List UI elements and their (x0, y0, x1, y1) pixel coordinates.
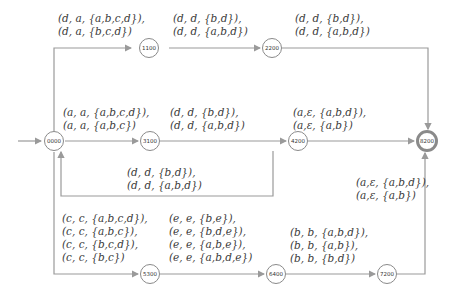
label-line: (d, d, {b,d}), (295, 12, 370, 25)
label-line: (a, a, {a,b,c}) (63, 119, 149, 132)
label-line: (e, e, {b,e}), (169, 212, 252, 225)
label-line: (d, d, {a,b,d}) (127, 179, 202, 192)
label-line: (a,ε, {a,b}) (356, 189, 429, 202)
edge-label-0000-1100: (d, a, {a,b,c,d}), (d, a, {b,c,d}) (58, 12, 145, 38)
label-line: (b, b, {a,b,d}), (290, 226, 368, 239)
edge-7200-8200 (397, 153, 425, 274)
label-line: (b, b, {a,b}), (290, 239, 368, 252)
label-line: (c, c, {a,b,c,d}), (62, 212, 148, 225)
edge-label-2200-8200: (d, d, {b,d}), (d, d, {a,b,d}) (295, 12, 370, 38)
node-6400[interactable]: 6400 (266, 264, 286, 284)
label-line: (a,ε, {a,b}) (293, 119, 366, 132)
node-label: 6400 (269, 271, 283, 277)
node-0000[interactable]: 0000 (44, 131, 64, 151)
label-line: (c, c, {b,c,d}), (62, 238, 148, 251)
node-label: 3100 (143, 138, 157, 144)
label-line: (b, b, {b,d}) (290, 252, 368, 265)
node-5300[interactable]: 5300 (140, 264, 160, 284)
node-1100[interactable]: 1100 (139, 38, 159, 58)
label-line: (d, d, {b,d}), (170, 106, 245, 119)
label-line: (d, d, {a,b,d}) (170, 119, 245, 132)
label-line: (e, e, {a,b,e}), (169, 238, 252, 251)
node-label: 0000 (47, 138, 61, 144)
edge-label-6400-7200: (b, b, {a,b,d}), (b, b, {a,b}), (b, b, {… (290, 226, 368, 265)
label-line: (a, a, {a,b,c,d}), (63, 106, 149, 119)
label-line: (e, e, {b,d,e}), (169, 225, 252, 238)
node-2200[interactable]: 2200 (262, 38, 282, 58)
node-3100[interactable]: 3100 (140, 131, 160, 151)
label-line: (d, a, {a,b,c,d}), (58, 12, 145, 25)
node-label: 4200 (291, 138, 305, 144)
node-7200[interactable]: 7200 (377, 264, 397, 284)
node-8200-final[interactable]: 8200 (416, 130, 438, 152)
edge-label-3100-4200: (d, d, {b,d}), (d, d, {a,b,d}) (170, 106, 245, 132)
node-label: 5300 (143, 271, 157, 277)
node-label: 8200 (420, 138, 434, 144)
label-line: (d, a, {b,c,d}) (58, 25, 145, 38)
edge-label-1100-2200: (d, d, {b,d}), (d, d, {a,b,d}) (173, 12, 248, 38)
label-line: (c, c, {a,b,c}), (62, 225, 148, 238)
label-line: (d, d, {b,d}), (127, 166, 202, 179)
label-line: (a,ε, {a,b,d}), (356, 176, 429, 189)
edge-label-7200-8200: (a,ε, {a,b,d}), (a,ε, {a,b}) (356, 176, 429, 202)
state-diagram: 0000 1100 2200 3100 4200 5300 6400 7200 … (0, 0, 459, 301)
edge-label-4200-8200: (a,ε, {a,b,d}), (a,ε, {a,b}) (293, 106, 366, 132)
label-line: (c, c, {b,c}) (62, 251, 148, 264)
label-line: (d, d, {b,d}), (173, 12, 248, 25)
node-label: 2200 (265, 45, 279, 51)
label-line: (e, e, {a,b,d,e}) (169, 251, 252, 264)
label-line: (d, d, {a,b,d}) (173, 25, 248, 38)
edge-label-5300-6400: (e, e, {b,e}), (e, e, {b,d,e}), (e, e, {… (169, 212, 252, 264)
edge-label-0000-5300: (c, c, {a,b,c,d}), (c, c, {a,b,c}), (c, … (62, 212, 148, 264)
edge-label-4200-0000: (d, d, {b,d}), (d, d, {a,b,d}) (127, 166, 202, 192)
node-label: 1100 (142, 45, 156, 51)
node-label: 7200 (380, 271, 394, 277)
label-line: (a,ε, {a,b,d}), (293, 106, 366, 119)
label-line: (d, d, {a,b,d}) (295, 25, 370, 38)
node-4200[interactable]: 4200 (288, 131, 308, 151)
edge-label-0000-3100: (a, a, {a,b,c,d}), (a, a, {a,b,c}) (63, 106, 149, 132)
